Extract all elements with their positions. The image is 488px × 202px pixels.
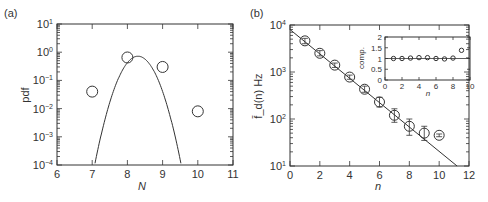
y-tick-label: 101 — [270, 160, 286, 172]
inset-data-point — [451, 56, 455, 60]
y-tick-label: 10−2 — [33, 103, 53, 115]
panel-a-chart: 6789101110−410−310−210−1100101 — [33, 18, 239, 180]
figure: 6789101110−410−310−210−1100101 024681012… — [0, 0, 488, 202]
inset-y-tick-label: 1.5 — [371, 44, 383, 53]
inset-chart: 024681000.511.52 — [371, 33, 475, 91]
inset-x-tick-label: 8 — [451, 82, 456, 91]
plot-frame — [57, 24, 233, 165]
y-tick-label: 10−1 — [33, 74, 53, 86]
inset-x-tick-label: 10 — [466, 82, 475, 91]
x-tick-label: 8 — [124, 168, 130, 180]
x-tick-label: 10 — [192, 168, 204, 180]
inset-data-point — [459, 48, 463, 52]
panel-b-label: (b) — [250, 7, 263, 19]
data-point — [122, 52, 133, 63]
inset-x-tick-label: 2 — [400, 82, 405, 91]
x-tick-label: 6 — [54, 168, 60, 180]
x-tick-label: 0 — [287, 169, 293, 181]
x-tick-label: 10 — [433, 169, 445, 181]
panel-a-x-axis-label: N — [138, 180, 146, 192]
inset-y-tick-label: 0 — [378, 76, 383, 85]
y-tick-label: 101 — [37, 18, 53, 30]
inset-data-point — [442, 57, 446, 61]
inset-x-tick-label: 0 — [383, 82, 388, 91]
data-point — [192, 106, 203, 117]
y-tick-label: 100 — [37, 46, 53, 58]
x-tick-label: 8 — [406, 169, 412, 181]
y-tick-label: 10−3 — [33, 131, 53, 143]
panel-b-chart: 024681012101102103104024681000.511.52 — [270, 19, 475, 181]
inset-x-tick-label: 4 — [417, 82, 422, 91]
inset-y-tick-label: 2 — [378, 33, 383, 42]
y-tick-label: 102 — [270, 113, 286, 125]
inset-data-point — [417, 55, 421, 59]
inset-data-point — [425, 55, 429, 59]
data-point — [157, 61, 168, 72]
y-tick-label: 103 — [270, 66, 286, 78]
inset-y-tick-label: 1 — [378, 55, 383, 64]
panel-b-y-axis-label: f̄_d(n) Hz — [252, 73, 264, 119]
y-tick-label: 104 — [270, 19, 286, 31]
inset-x-axis-label: n — [426, 89, 431, 98]
data-point — [87, 86, 98, 97]
x-tick-label: 11 — [227, 168, 238, 180]
inset-x-tick-label: 6 — [434, 82, 439, 91]
inset-y-tick-label: 0.5 — [371, 65, 383, 74]
panel-b-x-axis-label: n — [375, 180, 381, 192]
inset-y-axis-label: comp. — [357, 47, 366, 69]
x-tick-label: 12 — [463, 169, 475, 181]
fit-curve — [95, 56, 181, 163]
y-tick-label: 10−4 — [33, 159, 53, 171]
x-tick-label: 7 — [89, 168, 95, 180]
panel-a-y-axis-label: pdf — [19, 86, 31, 102]
x-tick-label: 9 — [160, 168, 166, 180]
x-tick-label: 4 — [347, 169, 353, 181]
x-tick-label: 2 — [317, 169, 323, 181]
inset-data-point — [408, 56, 412, 60]
panel-a-label: (a) — [4, 7, 17, 19]
